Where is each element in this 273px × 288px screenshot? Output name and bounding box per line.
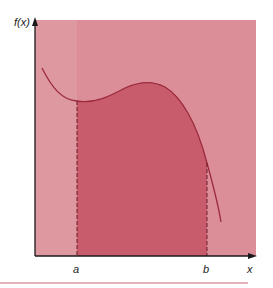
lower-bound-label: a xyxy=(73,263,79,275)
x-axis-label: x xyxy=(246,263,253,275)
y-axis-label: f(x) xyxy=(14,16,30,28)
upper-bound-label: b xyxy=(203,263,209,275)
left-strip-region xyxy=(35,20,77,256)
integral-diagram: f(x) x a b xyxy=(0,0,273,288)
